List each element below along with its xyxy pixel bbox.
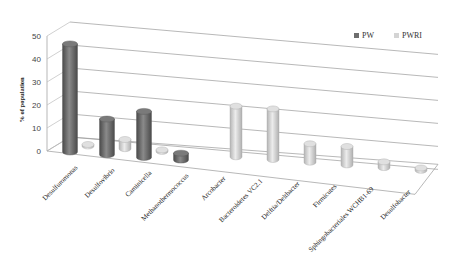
legend-swatch [354,33,359,38]
category-label: Arcobacter [200,174,228,202]
y-tick-label: 0 [37,147,42,156]
y-tick-label: 40 [32,55,41,64]
category-label: Firmicutes [312,182,339,209]
category-label: Sphingobacteriales WCHB1-69 [307,185,376,254]
legend-swatch [394,33,399,38]
bars [63,41,428,173]
bar-pwri [156,147,168,155]
category-label: Delftia/Deltbacter [260,179,302,221]
category-label: Desulfobacter [379,188,413,222]
category-label: Desulfovibrio [83,166,117,200]
bar-pwri [304,141,316,165]
chart: 01020304050 % of population Desulfuromon… [0,0,450,280]
y-axis-label: % of population [18,77,25,123]
bar-pwri [119,137,131,152]
bar-pw [63,41,78,155]
legend: PWPWRI [354,31,422,40]
category-label: Desulfuromonas [41,164,80,203]
bar-pwri [415,165,427,173]
legend-item-pw: PW [354,31,374,40]
category-labels: DesulfuromonasDesulfovibrioCaminicellaMe… [41,164,413,254]
category-label: Bacteroidetes VC2.1 [218,177,265,224]
y-tick-label: 30 [32,78,41,87]
svg-text:PW: PW [362,31,374,40]
bar-pwri [267,106,279,163]
y-tick-label: 10 [32,124,41,133]
legend-item-pwri: PWRI [394,31,422,40]
category-label: Caminicella [124,169,154,199]
bar-pw [100,116,115,158]
y-tick-label: 50 [32,32,41,41]
bar-pwri [341,144,353,168]
y-tick-label: 20 [32,101,41,110]
bar-pwri [82,142,94,150]
bar-pw [137,108,152,160]
y-axis: 01020304050 [32,32,41,156]
bar-pw [174,150,189,163]
svg-text:PWRI: PWRI [402,31,422,40]
bar-pwri [378,159,390,171]
bar-pwri [230,103,242,160]
